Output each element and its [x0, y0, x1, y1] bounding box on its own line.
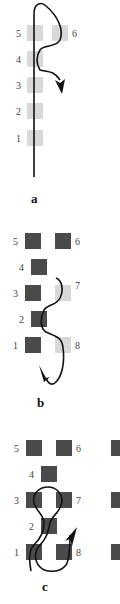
panel-c: 5 6 4 3 7 2 1 8 c: [0, 415, 120, 604]
path-arrow-a: [0, 0, 120, 210]
panel-label-b: b: [37, 396, 44, 409]
panel-label-a: a: [31, 192, 38, 205]
panel-b: 5 6 4 3 7 2 1 8 b: [0, 210, 120, 415]
panel-a: 5 6 4 3 2 1 a: [0, 0, 120, 210]
path-arrow-c: [0, 415, 120, 604]
panel-label-c: c: [42, 580, 48, 593]
path-arrow-b: [0, 210, 120, 415]
